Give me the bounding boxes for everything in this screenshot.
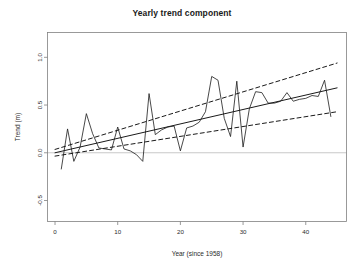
x-axis-label: Year (since 1958) (172, 250, 223, 258)
y-axis-tick-label: 0.0 (36, 148, 43, 157)
lower-confidence-band-line (55, 112, 337, 156)
upper-confidence-band-line (55, 63, 337, 149)
plot-frame (48, 33, 347, 222)
yearly-trend-component-line (61, 76, 331, 169)
x-axis-tick-label: 30 (240, 228, 247, 235)
x-axis-tick-label: 20 (177, 228, 184, 235)
y-axis-tick-label: 0.5 (36, 100, 43, 109)
chart-container: Yearly trend component 010203040 -0.50.0… (0, 0, 364, 269)
x-axis-tick-label: 40 (302, 228, 309, 235)
y-axis-tick-label: 1.0 (36, 52, 43, 61)
chart-plot-area: 010203040 -0.50.00.51.0 Year (since 1958… (0, 0, 364, 269)
y-axis-label: Trend (m) (14, 113, 22, 141)
y-axis: -0.50.00.51.0 (36, 52, 47, 205)
x-axis-tick-label: 10 (114, 228, 121, 235)
x-axis: 010203040 (53, 222, 309, 235)
x-axis-tick-label: 0 (53, 228, 57, 235)
y-axis-tick-label: -0.5 (36, 195, 43, 206)
fitted-trend-line-line (55, 88, 337, 153)
